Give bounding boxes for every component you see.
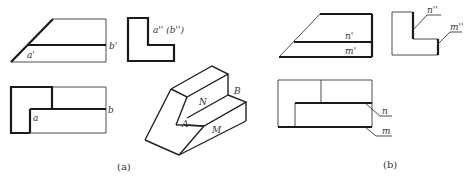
- figure-b-front-view: n' m': [279, 14, 372, 57]
- label-B: B: [233, 86, 241, 96]
- label-n: n: [382, 106, 388, 116]
- figure-a-isometric: N B A M: [145, 66, 246, 155]
- label-a: a: [33, 113, 38, 123]
- label-n-prime: n': [345, 31, 353, 41]
- figure-a-top-view: a b: [11, 87, 114, 133]
- label-b-prime: b': [109, 41, 117, 51]
- figure-b-top-view: n m: [278, 80, 392, 136]
- label-m: m: [382, 126, 391, 136]
- figure-a-side-view: a'' (b''): [128, 18, 184, 61]
- figure-b-side-view: n'' m'': [392, 5, 463, 55]
- label-b: b: [108, 105, 114, 115]
- label-M: M: [211, 125, 222, 135]
- label-N: N: [198, 97, 208, 107]
- label-m-double-prime: m'': [450, 22, 463, 32]
- label-m-prime: m': [345, 46, 356, 56]
- label-a-double-prime: a'' (b''): [153, 25, 184, 35]
- caption-b: (b): [383, 159, 397, 170]
- label-n-double-prime: n'': [427, 5, 438, 15]
- figure-a-front-view: a' b': [11, 19, 117, 62]
- caption-a: (a): [117, 161, 131, 172]
- label-A: A: [181, 119, 189, 129]
- label-a-prime: a': [27, 50, 35, 60]
- projection-drawing: a' b' a'' (b'') a b N B A M: [0, 0, 473, 180]
